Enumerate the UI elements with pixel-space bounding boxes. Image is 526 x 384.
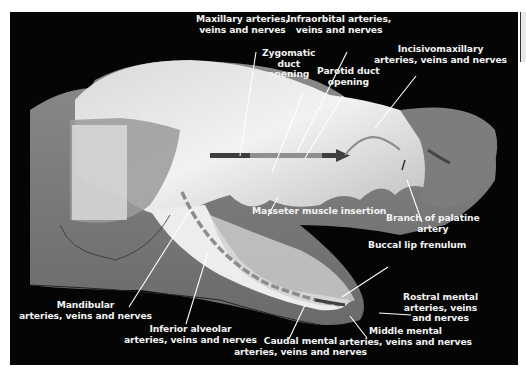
label-mandibular: Mandibulararteries, veins and nerves: [19, 300, 152, 321]
label-buccal: Buccal lip frenulum: [368, 240, 466, 251]
arrow-segment-dark: [210, 153, 250, 158]
page-edge-strip: [520, 12, 526, 62]
arrow-segment-light: [250, 153, 322, 158]
translucent-panel: [72, 125, 127, 220]
label-incisivomaxillary: Incisivomaxillaryarteries, veins and ner…: [374, 44, 507, 65]
label-zygomatic: Zygomaticductopening: [262, 48, 315, 80]
label-parotid: Parotid ductopening: [317, 66, 380, 87]
label-infraorbital: Infraorbital arteries,veins and nerves: [287, 14, 391, 35]
figure-frame: Maxillary arteries,veins and nerves Infr…: [10, 12, 518, 365]
label-masseter: Masseter muscle insertion: [252, 206, 386, 217]
label-rostral-mental: Rostral mentalarteries, veinsand nerves: [403, 292, 478, 324]
label-maxillary: Maxillary arteries,veins and nerves: [196, 14, 289, 35]
label-inferior-alveolar: Inferior alveolararteries, veins and ner…: [124, 324, 257, 345]
label-palatine: Branch of palatineartery: [386, 213, 480, 234]
